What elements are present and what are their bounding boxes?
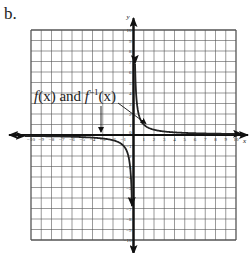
y-tick-label: 7: [129, 60, 132, 65]
origin-label: 0: [129, 130, 132, 135]
x-and-text: (x) and: [38, 88, 85, 105]
y-tick-label: 10: [127, 28, 133, 33]
curve-negative-branch: [25, 136, 132, 206]
x-paren-text: (x): [99, 88, 117, 105]
x-tick-label: −6: [69, 137, 75, 142]
x-tick-label: 1: [143, 137, 146, 142]
y-tick-label: 3: [129, 102, 132, 107]
pointer-arrow-finverse: [118, 103, 146, 124]
x-tick-label: 7: [204, 137, 207, 142]
y-tick-label: −8: [126, 217, 132, 222]
x-tick-label: 10: [234, 137, 240, 142]
x-tick-label: −10: [27, 137, 35, 142]
y-tick-label: −9: [126, 228, 132, 233]
inverse-superscript: −1: [89, 87, 99, 97]
x-axis-label: x: [242, 137, 247, 145]
y-tick-label: −7: [126, 207, 132, 212]
y-tick-label: −1: [126, 144, 132, 149]
y-tick-label: 9: [129, 39, 132, 44]
x-tick-label: 3: [163, 137, 166, 142]
x-tick-label: −8: [49, 137, 55, 142]
y-tick-label: 1: [129, 123, 132, 128]
annotation-label: f(x) and f−1(x): [34, 87, 116, 105]
x-tick-label: 8: [214, 137, 217, 142]
y-tick-label: 6: [129, 70, 132, 75]
y-tick-label: 4: [129, 91, 132, 96]
x-tick-label: 2: [153, 137, 156, 142]
y-tick-label: 5: [129, 81, 132, 86]
chart: xy −10−9−8−7−6−5−4−3−2−112345678910−10−9…: [0, 0, 249, 253]
x-tick-label: 6: [194, 137, 197, 142]
x-tick-label: −9: [39, 137, 45, 142]
x-tick-label: 4: [173, 137, 176, 142]
x-tick-label: 5: [184, 137, 187, 142]
x-tick-label: 9: [225, 137, 228, 142]
y-tick-label: −10: [124, 238, 132, 243]
curve-positive-branch: [135, 64, 242, 134]
y-axis-label: y: [126, 13, 131, 21]
y-tick-label: 8: [129, 49, 132, 54]
x-tick-label: −7: [59, 137, 65, 142]
x-tick-label: −1: [121, 137, 127, 142]
